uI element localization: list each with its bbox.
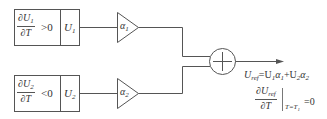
block-2-output-sub: 2 [72,93,76,101]
block-2-den: ∂T [21,93,32,104]
output-derivative-fraction: ∂Uref ∂T [255,86,277,111]
block-2-output: U2 [64,88,75,101]
block-1-relation: >0 [41,22,53,33]
wire-gain2-sum [139,67,211,94]
block-1-num-sub: 1 [30,17,34,25]
deriv-num-sub: ref [268,90,276,98]
block-1-output-sub: 1 [72,27,76,35]
block-2-num-sub: 2 [30,83,34,91]
eq-lhs-sub: ref [251,74,259,82]
deriv-den: ∂T [261,100,272,111]
wire-gain1-sum [139,28,211,57]
block-1-condition-fraction: ∂U1 ∂T [17,13,35,38]
block-2-relation: <0 [41,88,53,99]
gain-2-label: α2 [120,87,129,99]
block-2-num: ∂U [18,78,30,89]
eval-at-sub: 1 [298,107,301,112]
arrow-head-icon [276,59,284,64]
block-1-output: U1 [64,22,75,35]
output-equation: Uref=U1α1+U2α2 [244,70,309,82]
diagram-canvas [0,0,327,119]
block-2-output-label: U [64,87,72,99]
gain-1-sub: 1 [125,25,129,33]
eq-rhs-d-sub: 2 [306,74,310,82]
eval-value: =0 [304,97,315,107]
block-1-den: ∂T [21,27,32,38]
gain-1-label: α1 [120,21,129,33]
eq-rhs-a: =U [259,69,272,80]
eval-condition: T=T1 [285,104,300,112]
deriv-num: ∂U [256,85,268,96]
block-1-num: ∂U [18,12,30,23]
gain-2-sub: 2 [125,91,129,99]
block-2-condition-fraction: ∂U2 ∂T [17,79,35,104]
eq-rhs-c: +U [284,69,297,80]
eval-at: T=T [285,103,298,111]
block-1-output-label: U [64,21,72,33]
